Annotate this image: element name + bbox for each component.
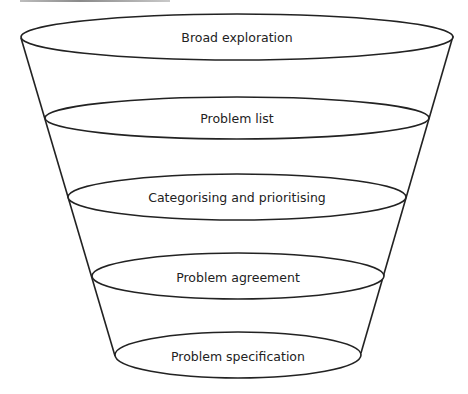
funnel-stage-broad-exploration: Broad exploration bbox=[21, 14, 453, 60]
problem-funnel-diagram: Broad exploration Problem list Categoris… bbox=[0, 0, 468, 394]
funnel-stage-categorising: Categorising and prioritising bbox=[68, 174, 406, 220]
stage-label: Problem list bbox=[200, 111, 274, 126]
stage-label: Categorising and prioritising bbox=[148, 190, 326, 205]
funnel-stage-problem-list: Problem list bbox=[45, 97, 429, 139]
funnel-stage-problem-specification: Problem specification bbox=[115, 332, 361, 378]
stage-label: Problem specification bbox=[171, 349, 305, 364]
funnel-stage-problem-agreement: Problem agreement bbox=[92, 253, 384, 299]
stage-label: Problem agreement bbox=[176, 270, 300, 285]
stage-label: Broad exploration bbox=[181, 30, 292, 45]
